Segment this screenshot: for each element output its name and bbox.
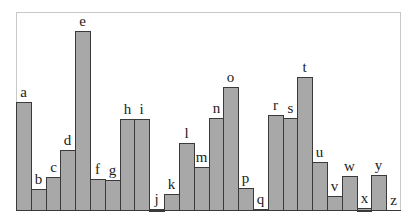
bar-chart: abcdefghijklmnopqrstuvwxyz	[0, 0, 414, 222]
bar-h	[120, 119, 135, 211]
bar-label-s: s	[283, 101, 298, 116]
bar-n	[209, 118, 224, 211]
bar-label-b: b	[31, 172, 46, 187]
bar-i	[134, 119, 150, 211]
bar-label-z: z	[386, 193, 401, 208]
bar-p	[238, 188, 254, 211]
bar-t	[297, 77, 313, 211]
bar-label-c: c	[46, 160, 61, 175]
bar-b	[31, 189, 47, 211]
bar-label-a: a	[16, 85, 31, 100]
bar-label-k: k	[164, 177, 179, 192]
bar-a	[16, 102, 32, 211]
bar-s	[283, 118, 298, 211]
bar-d	[60, 150, 76, 211]
bar-g	[105, 180, 121, 211]
bar-label-d: d	[60, 133, 75, 148]
bar-r	[268, 115, 284, 211]
bar-label-y: y	[371, 158, 386, 173]
bar-label-n: n	[209, 101, 224, 116]
bar-m	[194, 167, 210, 211]
bar-f	[90, 179, 106, 211]
bar-label-j: j	[149, 192, 164, 207]
bar-label-h: h	[120, 102, 135, 117]
bar-label-m: m	[194, 150, 209, 165]
bar-k	[164, 194, 180, 211]
bar-c	[46, 177, 61, 211]
bar-u	[312, 162, 328, 211]
bar-l	[179, 143, 195, 211]
bar-label-l: l	[179, 126, 194, 141]
bar-label-o: o	[223, 70, 238, 85]
bar-label-x: x	[357, 191, 372, 206]
bar-label-i: i	[134, 102, 149, 117]
bar-label-r: r	[268, 98, 283, 113]
bar-label-q: q	[253, 192, 268, 207]
bar-w	[342, 176, 358, 211]
bar-label-u: u	[312, 145, 327, 160]
bar-label-e: e	[75, 14, 90, 29]
bar-label-t: t	[297, 60, 312, 75]
bar-label-w: w	[342, 159, 357, 174]
bar-label-v: v	[327, 179, 342, 194]
bar-label-p: p	[238, 171, 253, 186]
bar-e	[75, 31, 91, 211]
x-axis-baseline	[16, 210, 401, 211]
bar-v	[327, 196, 343, 211]
bar-y	[371, 175, 387, 211]
bar-label-g: g	[105, 163, 120, 178]
bar-label-f: f	[90, 162, 105, 177]
bar-o	[223, 87, 239, 211]
